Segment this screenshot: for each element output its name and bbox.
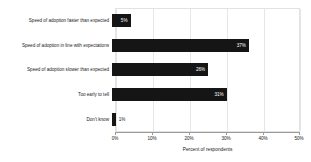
bar-value-0: 5% <box>121 18 131 23</box>
x-tick-20 <box>189 132 190 135</box>
bar-track-3: 31% <box>112 82 297 107</box>
category-label-1: Speed of adoption in line with expectati… <box>0 43 112 48</box>
bar-track-0: 5% <box>112 8 297 33</box>
bar-value-1: 37% <box>237 43 249 48</box>
x-tick-label-10: 10% <box>147 136 156 141</box>
bar-value-4: 1% <box>116 117 126 122</box>
bar-4[interactable] <box>112 113 116 126</box>
x-tick-label-20: 20% <box>184 136 193 141</box>
bar-1[interactable]: 37% <box>112 39 249 52</box>
x-tick-30 <box>226 132 227 135</box>
x-tick-label-0: 0% <box>112 136 119 141</box>
bar-track-1: 37% <box>112 33 297 58</box>
bar-track-2: 26% <box>112 58 297 83</box>
table-row: Speed of adoption faster than expected 5… <box>0 8 311 33</box>
table-row: Speed of adoption in line with expectati… <box>0 33 311 58</box>
bar-2[interactable]: 26% <box>112 63 208 76</box>
category-label-3: Too early to tell <box>0 92 112 97</box>
bar-track-4: 1% <box>112 107 297 132</box>
bar-value-2: 26% <box>196 67 208 72</box>
x-tick-0 <box>115 132 116 135</box>
table-row: Speed of adoption slower than expected 2… <box>0 58 311 83</box>
bar-value-3: 31% <box>214 92 226 97</box>
category-label-2: Speed of adoption slower than expected <box>0 67 112 72</box>
bar-chart: Speed of adoption faster than expected 5… <box>0 0 311 162</box>
x-tick-label-50: 50% <box>294 136 303 141</box>
x-tick-label-40: 40% <box>258 136 267 141</box>
x-tick-label-30: 30% <box>221 136 230 141</box>
category-label-0: Speed of adoption faster than expected <box>0 18 112 23</box>
bar-rows: Speed of adoption faster than expected 5… <box>0 8 311 132</box>
table-row: Too early to tell 31% <box>0 82 311 107</box>
category-label-4: Don't know <box>0 117 112 122</box>
x-tick-10 <box>152 132 153 135</box>
x-tick-50 <box>299 132 300 135</box>
x-tick-40 <box>263 132 264 135</box>
table-row: Don't know 1% <box>0 107 311 132</box>
bar-0[interactable]: 5% <box>112 14 131 27</box>
x-axis: 0% 10% 20% 30% 40% 50% <box>115 132 300 133</box>
bar-3[interactable]: 31% <box>112 88 227 101</box>
x-axis-title: Percent of respondents <box>115 147 300 152</box>
